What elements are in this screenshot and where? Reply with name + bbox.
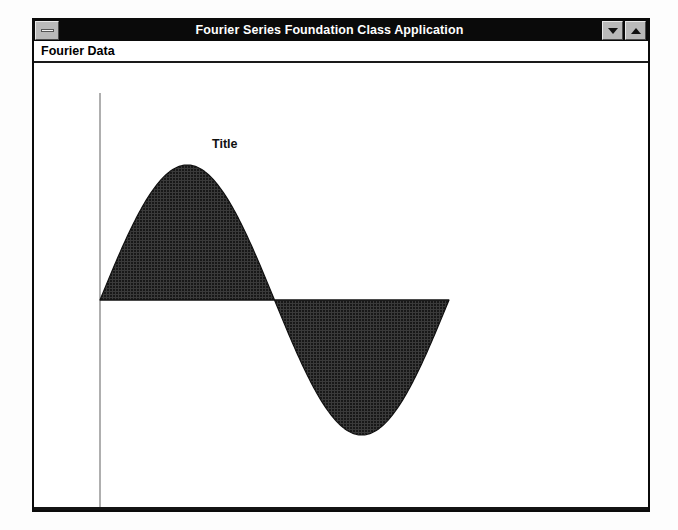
menu-item-fourier-data[interactable]: Fourier Data — [34, 41, 121, 61]
system-menu-bar-glyph — [41, 29, 54, 32]
window-bottom-edge — [34, 507, 648, 510]
plot-client-area: Title — [34, 63, 648, 510]
menu-bar: Fourier Data — [34, 41, 648, 63]
title-bar[interactable]: Fourier Series Foundation Class Applicat… — [34, 20, 648, 41]
desktop-background: Fourier Series Foundation Class Applicat… — [0, 0, 678, 530]
system-menu-icon[interactable] — [35, 21, 59, 40]
chart-title: Title — [212, 137, 237, 151]
window-controls — [602, 21, 646, 40]
triangle-down-icon — [608, 28, 618, 34]
maximize-button[interactable] — [625, 21, 646, 40]
triangle-up-icon — [631, 28, 641, 34]
fourier-plot — [34, 63, 648, 510]
minimize-button[interactable] — [602, 21, 623, 40]
window-title: Fourier Series Foundation Class Applicat… — [59, 20, 602, 41]
application-window: Fourier Series Foundation Class Applicat… — [32, 18, 650, 512]
